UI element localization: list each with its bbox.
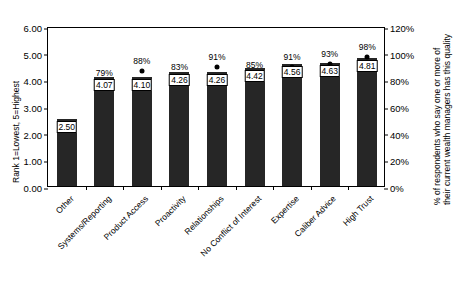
x-axis-label: Expertise bbox=[269, 193, 301, 225]
bar-value-label: 2.50 bbox=[56, 121, 77, 133]
bar-value-label: 4.10 bbox=[132, 79, 153, 91]
bar-value-label: 4.63 bbox=[319, 65, 340, 77]
bar[interactable] bbox=[320, 63, 340, 186]
bar[interactable] bbox=[357, 58, 377, 186]
percent-marker-dot[interactable] bbox=[139, 68, 144, 73]
percent-label: 83% bbox=[171, 62, 188, 72]
y-axis-title-left: Rank 1=Lowest, 5=Highest bbox=[11, 81, 21, 183]
x-axis-tick bbox=[161, 186, 162, 190]
x-axis-label: High Trust bbox=[341, 193, 375, 227]
x-axis-tick bbox=[198, 186, 199, 190]
bar[interactable] bbox=[245, 68, 265, 186]
x-axis-label: Proactivity bbox=[153, 193, 188, 228]
bar[interactable] bbox=[132, 77, 152, 186]
y-tick-left: 1.00 bbox=[24, 156, 49, 167]
bar-value-label: 4.42 bbox=[244, 70, 265, 82]
percent-label: 93% bbox=[321, 49, 338, 59]
percent-label: 85% bbox=[246, 60, 263, 70]
plot-area: 0.001.002.003.004.005.006.000%20%40%60%8… bbox=[47, 27, 385, 187]
y-tick-left: 5.00 bbox=[24, 49, 49, 60]
x-axis-tick bbox=[236, 186, 237, 190]
x-axis-tick bbox=[123, 186, 124, 190]
chart-container: Rank 1=Lowest, 5=Highest % of respondent… bbox=[0, 0, 454, 285]
bar-value-label: 4.07 bbox=[94, 79, 115, 91]
y-tick-right: 120% bbox=[384, 23, 414, 34]
bar-value-label: 4.26 bbox=[169, 74, 190, 86]
y-tick-right: 60% bbox=[384, 103, 409, 114]
plot-inner: 0.001.002.003.004.005.006.000%20%40%60%8… bbox=[48, 28, 384, 186]
percent-label: 98% bbox=[359, 42, 376, 52]
y-axis-title-right: % of respondents who say one or more of … bbox=[432, 5, 452, 205]
y-tick-left: 3.00 bbox=[24, 103, 49, 114]
percent-label: 91% bbox=[208, 52, 225, 62]
bar-value-label: 4.26 bbox=[207, 74, 228, 86]
bar[interactable] bbox=[282, 64, 302, 186]
x-axis-label: Other bbox=[53, 193, 75, 215]
y-axis-title-right-line-1: % of respondents who say one or more of bbox=[432, 5, 442, 205]
percent-label: 88% bbox=[133, 56, 150, 66]
y-tick-left: 0.00 bbox=[24, 183, 49, 194]
x-axis-tick bbox=[273, 186, 274, 190]
y-tick-left: 4.00 bbox=[24, 76, 49, 87]
y-tick-right: 40% bbox=[384, 129, 409, 140]
y-tick-left: 2.00 bbox=[24, 129, 49, 140]
y-tick-right: 100% bbox=[384, 49, 414, 60]
y-tick-right: 20% bbox=[384, 156, 409, 167]
y-tick-left: 6.00 bbox=[24, 23, 49, 34]
y-tick-right: 0% bbox=[384, 183, 404, 194]
bar-value-label: 4.56 bbox=[282, 66, 303, 78]
x-axis-tick bbox=[348, 186, 349, 190]
bar[interactable] bbox=[94, 77, 114, 186]
y-axis-title-right-line-2: their current wealth managers has this q… bbox=[442, 5, 452, 205]
x-axis-tick bbox=[86, 186, 87, 190]
y-tick-right: 80% bbox=[384, 76, 409, 87]
percent-label: 79% bbox=[96, 68, 113, 78]
x-axis-tick bbox=[311, 186, 312, 190]
bar-value-label: 4.81 bbox=[357, 60, 378, 72]
percent-marker-dot[interactable] bbox=[215, 64, 220, 69]
bar[interactable] bbox=[169, 72, 189, 186]
percent-label: 91% bbox=[284, 52, 301, 62]
bar[interactable] bbox=[207, 72, 227, 186]
